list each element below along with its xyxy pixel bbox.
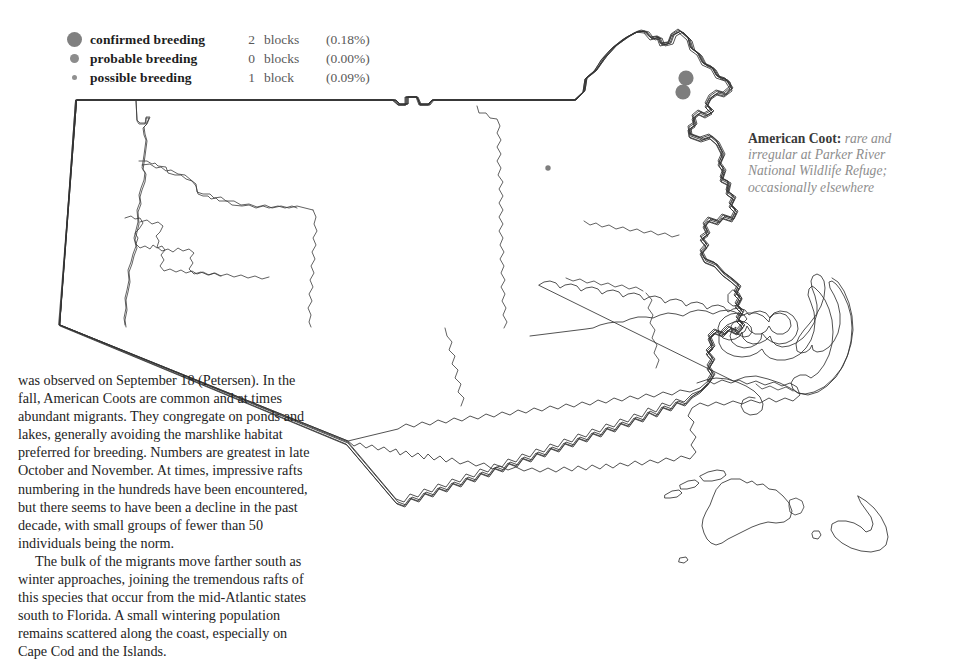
legend-unit-probable: blocks (255, 51, 326, 67)
elizabeth-islands (665, 470, 726, 563)
confirmed-dot-2 (675, 84, 690, 99)
legend-row-possible: possible breeding 1 block (0.09%) (58, 68, 398, 87)
legend-unit-confirmed: blocks (255, 32, 326, 48)
probable-breeding-dot-icon (58, 54, 90, 63)
legend-label-confirmed: confirmed breeding (90, 32, 242, 48)
legend-count-probable: 0 (242, 51, 255, 67)
southeast-coast (697, 378, 763, 415)
legend-row-probable: probable breeding 0 blocks (0.00%) (58, 49, 398, 68)
legend-percent-probable: (0.00%) (326, 51, 370, 67)
legend-label-probable: probable breeding (90, 51, 242, 67)
caption-species-name: American Coot: (748, 131, 841, 146)
breeding-dots (545, 70, 693, 170)
map-caption: American Coot: rare and irregular at Par… (748, 131, 932, 196)
legend-label-possible: possible breeding (90, 70, 242, 86)
coastal-details (728, 290, 742, 306)
possible-dot-1 (545, 165, 550, 170)
species-account-text: was observed on September 18 (Petersen).… (18, 371, 318, 661)
cape-cod-shape (530, 278, 853, 394)
cape-cod (539, 274, 852, 395)
account-paragraph-1: was observed on September 18 (Petersen).… (18, 371, 318, 552)
legend-row-confirmed: confirmed breeding 2 blocks (0.18%) (58, 30, 398, 49)
account-paragraph-2: The bulk of the migrants move farther so… (18, 552, 318, 661)
legend-unit-possible: block (255, 70, 326, 86)
marthas-vineyard (702, 479, 804, 545)
nantucket (812, 496, 888, 552)
legend-percent-possible: (0.09%) (326, 70, 370, 86)
county-boundaries-west (124, 100, 297, 325)
confirmed-breeding-dot-icon (58, 32, 90, 47)
legend-percent-confirmed: (0.18%) (326, 32, 370, 48)
legend-count-confirmed: 2 (242, 32, 255, 48)
confirmed-dot-1 (678, 70, 693, 85)
county-lines (125, 100, 793, 406)
legend-count-possible: 1 (242, 70, 255, 86)
legend: confirmed breeding 2 blocks (0.18%) prob… (58, 30, 398, 87)
possible-breeding-dot-icon (58, 75, 90, 80)
